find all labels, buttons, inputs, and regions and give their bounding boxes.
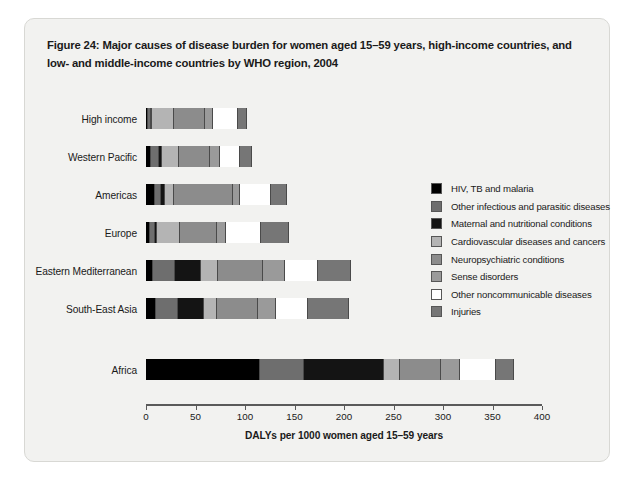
bar-segment[interactable] bbox=[240, 184, 271, 205]
bar-segment[interactable] bbox=[153, 260, 175, 281]
bar-segment[interactable] bbox=[175, 260, 202, 281]
x-axis-tick bbox=[493, 406, 494, 410]
bar-category-label: South-East Asia bbox=[66, 303, 137, 314]
legend-swatch bbox=[431, 289, 442, 300]
bar-segment[interactable] bbox=[285, 260, 319, 281]
bar-segment[interactable] bbox=[240, 146, 252, 167]
bar-segment[interactable] bbox=[233, 184, 240, 205]
legend-label: Neuropsychiatric conditions bbox=[451, 254, 564, 265]
x-axis-tick bbox=[295, 406, 296, 410]
bar-segment[interactable] bbox=[263, 260, 285, 281]
legend-swatch bbox=[431, 183, 442, 194]
bar-segment[interactable] bbox=[308, 298, 349, 319]
bar-track[interactable] bbox=[146, 298, 349, 319]
bar-segment[interactable] bbox=[258, 298, 276, 319]
legend-swatch bbox=[431, 218, 442, 229]
bar-segment[interactable] bbox=[146, 260, 153, 281]
legend-label: Injuries bbox=[451, 306, 481, 317]
bar-segment[interactable] bbox=[174, 108, 206, 129]
bar-segment[interactable] bbox=[146, 359, 260, 380]
bar-segment[interactable] bbox=[441, 359, 460, 380]
bar-segment[interactable] bbox=[180, 222, 218, 243]
bar-row: High income bbox=[146, 108, 542, 129]
legend-item[interactable]: Maternal and nutritional conditions bbox=[431, 215, 621, 233]
x-axis-tick bbox=[146, 406, 147, 410]
bar-segment[interactable] bbox=[276, 298, 309, 319]
legend-swatch bbox=[431, 306, 442, 317]
bar-segment[interactable] bbox=[178, 298, 205, 319]
bar-segment[interactable] bbox=[151, 146, 159, 167]
bar-segment[interactable] bbox=[460, 359, 497, 380]
x-axis-tick-label: 150 bbox=[286, 411, 302, 422]
bar-segment[interactable] bbox=[201, 260, 218, 281]
legend-item[interactable]: Injuries bbox=[431, 303, 621, 321]
bar-segment[interactable] bbox=[146, 298, 156, 319]
bar-segment[interactable] bbox=[400, 359, 441, 380]
bar-segment[interactable] bbox=[165, 184, 174, 205]
bar-track[interactable] bbox=[146, 184, 287, 205]
bar-segment[interactable] bbox=[218, 260, 263, 281]
bar-segment[interactable] bbox=[217, 298, 258, 319]
legend-swatch bbox=[431, 271, 442, 282]
bar-segment[interactable] bbox=[162, 146, 179, 167]
bar-segment[interactable] bbox=[217, 222, 226, 243]
bar-track[interactable] bbox=[146, 108, 247, 129]
x-axis-tick bbox=[245, 406, 246, 410]
bar-segment[interactable] bbox=[179, 146, 211, 167]
bar-track[interactable] bbox=[146, 359, 514, 380]
x-axis-tick-label: 350 bbox=[484, 411, 500, 422]
bar-segment[interactable] bbox=[220, 146, 240, 167]
bar-segment[interactable] bbox=[146, 184, 155, 205]
legend-item[interactable]: Other noncommunicable diseases bbox=[431, 286, 621, 304]
bar-category-label: Eastern Mediterranean bbox=[35, 265, 137, 276]
legend-label: HIV, TB and malaria bbox=[451, 183, 533, 194]
bar-category-label: Africa bbox=[112, 364, 137, 375]
figure-title: Figure 24: Major causes of disease burde… bbox=[47, 37, 587, 72]
legend-item[interactable]: HIV, TB and malaria bbox=[431, 180, 621, 198]
bar-row: Western Pacific bbox=[146, 146, 542, 167]
x-axis-tick-label: 300 bbox=[435, 411, 451, 422]
legend-item[interactable]: Neuropsychiatric conditions bbox=[431, 250, 621, 268]
bar-segment[interactable] bbox=[205, 108, 213, 129]
x-axis-tick bbox=[394, 406, 395, 410]
chart-legend: HIV, TB and malariaOther infectious and … bbox=[431, 180, 621, 321]
bar-track[interactable] bbox=[146, 146, 252, 167]
bar-segment[interactable] bbox=[260, 359, 305, 380]
x-axis-tick bbox=[542, 406, 543, 410]
bar-segment[interactable] bbox=[152, 108, 174, 129]
bar-segment[interactable] bbox=[238, 108, 247, 129]
bar-track[interactable] bbox=[146, 260, 351, 281]
x-axis-tick-label: 200 bbox=[336, 411, 352, 422]
bar-segment[interactable] bbox=[157, 222, 180, 243]
bar-segment[interactable] bbox=[318, 260, 351, 281]
x-axis-tick bbox=[344, 406, 345, 410]
legend-swatch bbox=[431, 254, 442, 265]
legend-item[interactable]: Sense disorders bbox=[431, 268, 621, 286]
bar-segment[interactable] bbox=[261, 222, 290, 243]
x-axis-title: DALYs per 1000 women aged 15–59 years bbox=[146, 430, 542, 441]
bar-segment[interactable] bbox=[384, 359, 401, 380]
bar-category-label: Europe bbox=[105, 227, 137, 238]
bar-segment[interactable] bbox=[156, 298, 178, 319]
bar-segment[interactable] bbox=[210, 146, 220, 167]
legend-label: Other infectious and parasitic diseases bbox=[451, 201, 610, 212]
legend-item[interactable]: Cardiovascular diseases and cancers bbox=[431, 233, 621, 251]
bar-category-label: High income bbox=[81, 113, 137, 124]
bar-row: Africa bbox=[146, 359, 542, 380]
legend-label: Cardiovascular diseases and cancers bbox=[451, 236, 605, 247]
legend-swatch bbox=[431, 201, 442, 212]
bar-segment[interactable] bbox=[213, 108, 238, 129]
bar-segment[interactable] bbox=[304, 359, 383, 380]
x-axis-tick-label: 100 bbox=[237, 411, 253, 422]
bar-segment[interactable] bbox=[271, 184, 287, 205]
bar-segment[interactable] bbox=[204, 298, 217, 319]
bar-segment[interactable] bbox=[174, 184, 233, 205]
bar-category-label: Americas bbox=[95, 189, 137, 200]
legend-label: Other noncommunicable diseases bbox=[451, 289, 592, 300]
legend-item[interactable]: Other infectious and parasitic diseases bbox=[431, 198, 621, 216]
bar-segment[interactable] bbox=[496, 359, 514, 380]
legend-label: Maternal and nutritional conditions bbox=[451, 218, 592, 229]
bar-segment[interactable] bbox=[226, 222, 261, 243]
legend-swatch bbox=[431, 236, 442, 247]
bar-track[interactable] bbox=[146, 222, 290, 243]
